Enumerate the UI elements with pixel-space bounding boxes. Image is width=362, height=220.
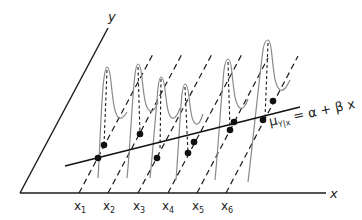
- tick-x2: x2: [103, 199, 115, 215]
- peak-line-2: [138, 67, 140, 134]
- x-axis-label: x: [329, 186, 338, 201]
- point-x1-mean: [95, 155, 102, 162]
- point-x6-mean: [260, 117, 267, 124]
- density-curve-5: [215, 59, 248, 180]
- peak-line-5: [228, 62, 230, 130]
- peak-drop-lines: [104, 43, 268, 153]
- point-x6-obs: [270, 98, 277, 105]
- x-level-lines: [79, 54, 298, 193]
- point-x5-mean: [231, 119, 238, 126]
- point-x4-mean: [191, 139, 198, 146]
- regression-equation: μY|x = α + β x: [268, 96, 358, 131]
- x3-line: [138, 54, 212, 193]
- svg-text:μY|x = α + β x: μY|x = α + β x: [268, 96, 358, 131]
- point-x4-obs: [185, 150, 192, 157]
- peak-line-4: [185, 87, 188, 153]
- equation-rhs: = α + β x: [288, 96, 357, 125]
- x4-line: [168, 54, 242, 193]
- peak-line-6: [265, 43, 268, 118]
- distribution-curves: [98, 40, 290, 182]
- peak-line-3: [160, 79, 161, 150]
- tick-x1: x1: [74, 199, 86, 215]
- point-x5-obs: [227, 127, 234, 134]
- density-curve-2: [127, 64, 158, 178]
- tick-x3: x3: [133, 199, 145, 215]
- y-axis-label: y: [107, 9, 116, 24]
- tick-x4: x4: [162, 199, 174, 215]
- tick-x6: x6: [221, 199, 233, 215]
- x-tick-labels: x1 x2 x3 x4 x5 x6: [74, 199, 233, 215]
- peak-line-1: [104, 70, 107, 145]
- y-axis: [20, 28, 108, 193]
- point-x3-obs: [154, 155, 161, 162]
- point-x2-obs: [137, 131, 144, 138]
- density-curve-1: [98, 67, 127, 178]
- tick-x5: x5: [192, 199, 204, 215]
- regression-diagram: y x: [0, 0, 362, 220]
- x2-line: [108, 54, 182, 193]
- point-x1-obs: [101, 142, 108, 149]
